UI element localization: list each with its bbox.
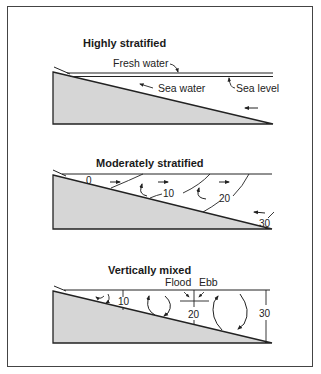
ebb-arrow-icon <box>199 292 204 297</box>
isohaline-label-30: 30 <box>259 308 271 319</box>
circulation-arrow-icon <box>164 296 170 316</box>
seabed-wedge <box>53 291 272 343</box>
flood-arrow-icon <box>184 292 189 297</box>
sea-level-label: Sea level <box>236 82 279 94</box>
estuary-diagram: Highly stratified Fresh water Sea water … <box>0 0 321 374</box>
isohaline-10-line <box>111 174 143 188</box>
isohaline-30-line <box>268 212 274 218</box>
sea-water-flow-arrow-icon <box>140 84 153 88</box>
seabed-wedge <box>53 72 273 124</box>
sea-water-label: Sea water <box>158 82 206 94</box>
circulation-arrow-icon <box>213 296 222 330</box>
mixing-curl-arrow-icon <box>198 188 206 199</box>
mixing-arrow-icon <box>96 296 104 298</box>
panel-title: Vertically mixed <box>108 264 191 276</box>
flood-label: Flood <box>165 276 191 288</box>
sea-level-pointer-arrow-icon <box>229 78 235 88</box>
isohaline-label-30: 30 <box>259 218 271 229</box>
isohaline-label-20: 20 <box>188 309 200 320</box>
mixing-arrow-icon <box>106 294 109 303</box>
panel-highly-stratified: Highly stratified Fresh water Sea water … <box>53 37 279 124</box>
isohaline-20-lower <box>203 201 220 212</box>
isohaline-label-10: 10 <box>118 296 130 307</box>
ebb-label: Ebb <box>199 276 218 288</box>
isohaline-20-top <box>233 174 249 196</box>
isohaline-label-10: 10 <box>163 188 175 199</box>
fresh-water-label: Fresh water <box>113 57 169 69</box>
isohaline-label-20: 20 <box>219 193 231 204</box>
panel-title: Moderately stratified <box>96 157 204 169</box>
panel-vertically-mixed: Vertically mixed 10 Flood Ebb 20 30 <box>53 264 272 343</box>
panel-moderately-stratified: Moderately stratified 0 10 20 30 <box>53 157 274 229</box>
inflow-arrow-icon <box>254 212 265 213</box>
isohaline-20-upper <box>183 174 210 193</box>
mixing-curl-arrow-icon <box>141 184 147 196</box>
circulation-arrow-icon <box>148 296 155 315</box>
panel-title: Highly stratified <box>83 37 166 49</box>
isohaline-label-0: 0 <box>86 175 92 186</box>
isohaline-10-lower <box>150 194 162 198</box>
fresh-water-pointer-arrow-icon <box>170 64 178 72</box>
circulation-arrow-icon <box>238 294 247 329</box>
